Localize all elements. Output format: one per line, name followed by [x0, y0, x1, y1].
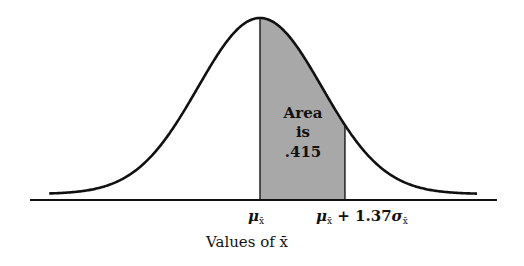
svg-text:μx̄ + 1.37σx̄: μx̄ + 1.37σx̄ — [316, 207, 408, 226]
xbar-subscript: x̄ — [403, 216, 408, 226]
area-annotation-line-1: Area — [283, 104, 323, 122]
xbar-subscript: x̄ — [259, 216, 264, 226]
normal-curve-chart: Area is .415 μx̄ μx̄ + 1.37σx̄ Values of… — [0, 0, 524, 266]
x-tick-mean: μx̄ — [248, 207, 264, 226]
plus-1-37: + 1.37 — [332, 207, 392, 225]
mu-symbol: μ — [316, 207, 327, 225]
svg-text:μx̄: μx̄ — [248, 207, 264, 226]
area-annotation-line-3: .415 — [285, 143, 322, 161]
area-annotation-line-2: is — [296, 123, 310, 141]
x-tick-mean-plus-1-37-sd: μx̄ + 1.37σx̄ — [316, 207, 408, 226]
x-axis-label: Values of x̄ — [205, 233, 289, 251]
mu-symbol: μ — [248, 207, 259, 225]
